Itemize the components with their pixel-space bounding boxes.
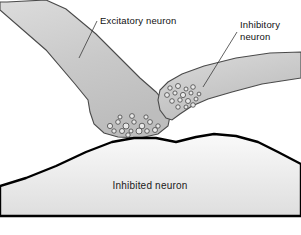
synapse-diagram-svg: Excitatory neuron Inhibitoryneuron Inhib… <box>0 0 301 235</box>
synaptic-vesicle <box>130 114 135 119</box>
synaptic-vesicle <box>176 84 181 89</box>
label-inhibited-neuron: Inhibited neuron <box>113 180 188 191</box>
synaptic-vesicle <box>170 99 175 104</box>
synaptic-vesicle <box>112 129 116 133</box>
synaptic-vesicle <box>118 115 122 119</box>
synaptic-vesicle <box>145 129 150 134</box>
synaptic-vesicle <box>123 123 129 129</box>
synaptic-vesicle <box>176 105 180 109</box>
synaptic-vesicle <box>180 92 185 97</box>
synaptic-vesicle <box>129 129 133 133</box>
synaptic-vesicle <box>173 91 177 95</box>
synaptic-vesicle <box>184 87 188 91</box>
synaptic-vesicle <box>178 98 182 102</box>
synaptic-vesicle <box>132 120 136 124</box>
synaptic-vesicle <box>120 129 125 134</box>
label-inhibitory-line: neuron <box>240 31 270 42</box>
synaptic-vesicle <box>144 115 148 119</box>
synaptic-vesicle <box>136 128 142 134</box>
diagram-figure: Excitatory neuron Inhibitoryneuron Inhib… <box>0 0 301 235</box>
synaptic-vesicle <box>191 103 196 108</box>
synaptic-vesicle <box>184 105 188 109</box>
synaptic-vesicle <box>126 133 130 137</box>
synaptic-vesicle <box>107 123 112 128</box>
synaptic-vesicle <box>165 93 170 98</box>
synaptic-vesicle <box>197 92 201 96</box>
synaptic-vesicle <box>153 128 158 133</box>
synaptic-vesicle <box>116 120 121 125</box>
synaptic-vesicle <box>189 91 193 95</box>
synaptic-vesicle <box>186 99 191 104</box>
label-inhibitory-line: Inhibitory <box>240 19 280 30</box>
label-excitatory-neuron: Excitatory neuron <box>100 15 176 26</box>
synaptic-vesicle <box>148 120 153 125</box>
synaptic-vesicle <box>168 86 172 90</box>
synaptic-vesicle <box>191 85 196 90</box>
synaptic-vesicle <box>194 97 198 101</box>
